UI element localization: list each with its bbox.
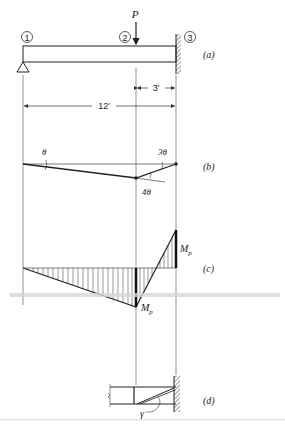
- panel-b-mechanism: θ 3θ 4θ (b): [23, 147, 215, 197]
- guide-lines: [23, 68, 176, 385]
- mp-label-top: Mp: [179, 243, 192, 257]
- beam: [23, 46, 176, 62]
- panel-label-b: (b): [203, 161, 215, 173]
- pin-support-icon: [17, 62, 29, 72]
- rotation-theta: θ: [42, 147, 47, 157]
- rotation-3theta: 3θ: [157, 147, 168, 157]
- node-label-1: 1: [24, 33, 29, 43]
- rotation-4theta: 4θ: [142, 187, 152, 197]
- angle-gamma: γ: [140, 408, 145, 419]
- panel-label-a: (a): [203, 49, 215, 61]
- panel-label-c: (c): [203, 263, 215, 275]
- scan-band-bottom: [0, 419, 285, 421]
- plastic-hinge-3: [174, 162, 178, 166]
- mp-label-bottom: Mp: [140, 302, 153, 316]
- node-label-3: 3: [187, 33, 192, 43]
- fixed-wall-icon: [176, 34, 181, 74]
- panel-a-beam: 1 2 3 P (a): [17, 8, 215, 74]
- fixed-wall-icon-detail: [174, 376, 180, 412]
- dimension-3ft: 3': [153, 83, 160, 93]
- collapse-mechanism: [23, 164, 176, 178]
- beam-diagram: 1 2 3 P (a) 3' 12' θ 3θ 4θ (b): [0, 0, 285, 426]
- panel-label-d: (d): [203, 395, 215, 407]
- panel-d-detail: γ (d): [108, 376, 215, 419]
- plastic-hinge-2: [134, 176, 138, 180]
- dimension-12ft: 12': [98, 101, 110, 111]
- load-label: P: [131, 8, 139, 20]
- node-label-2: 2: [122, 33, 127, 43]
- panel-c-moment-diagram: Mp Mp (c): [23, 230, 215, 316]
- scan-band: [10, 293, 280, 297]
